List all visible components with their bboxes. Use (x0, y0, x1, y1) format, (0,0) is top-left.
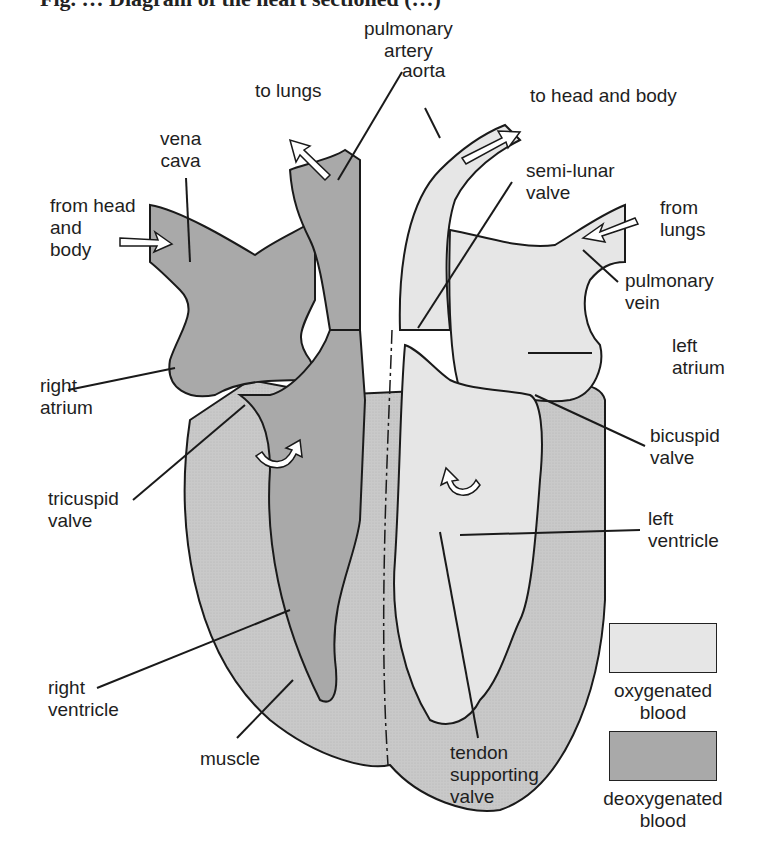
label-to-lungs: to lungs (255, 80, 322, 102)
label-left-atrium: left atrium (672, 335, 725, 379)
right-atrium (150, 205, 320, 396)
label-left-ventricle: left ventricle (648, 508, 719, 552)
label-to-head-and-body: to head and body (530, 85, 677, 107)
label-muscle: muscle (200, 748, 260, 770)
label-bicuspid-valve: bicuspid valve (650, 425, 720, 469)
label-from-head-and-body: from head and body (50, 195, 136, 261)
label-pulmonary-vein: pulmonary vein (625, 270, 714, 314)
label-right-ventricle: right ventricle (48, 677, 119, 721)
label-vena-cava: vena cava (160, 128, 201, 172)
legend-swatch-deoxygenated (609, 731, 717, 781)
label-tendon-supporting-valve: tendon supporting valve (450, 742, 539, 808)
legend-label-oxygenated: oxygenated blood (605, 680, 721, 724)
label-aorta: aorta (402, 60, 445, 82)
label-from-lungs: from lungs (660, 197, 705, 241)
legend-label-deoxygenated: deoxygenated blood (593, 788, 733, 832)
label-semi-lunar-valve: semi-lunar valve (526, 160, 615, 204)
legend-swatch-oxygenated (609, 623, 717, 673)
label-right-atrium: right atrium (40, 375, 93, 419)
label-pulmonary-artery: pulmonary artery (364, 18, 453, 62)
label-tricuspid-valve: tricuspid valve (48, 488, 119, 532)
